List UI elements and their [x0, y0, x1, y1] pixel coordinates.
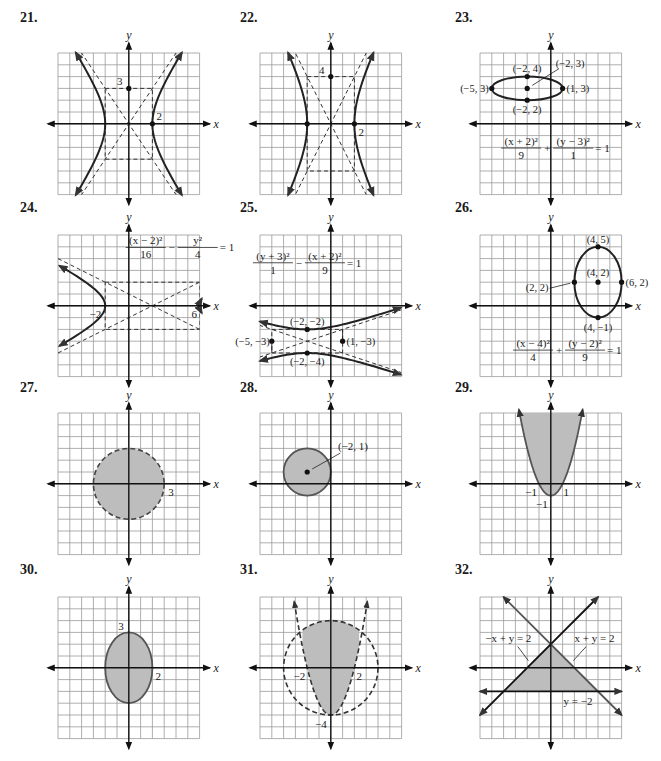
annotation-label: −2: [293, 670, 305, 682]
y-axis-label: y: [547, 28, 554, 42]
svg-text:−: −: [169, 241, 175, 253]
y-axis-label: y: [547, 388, 554, 402]
plot-31: −22−4xy: [240, 562, 460, 757]
svg-text:y²: y²: [193, 234, 203, 246]
annotation-label: 2: [156, 110, 162, 122]
svg-text:9: 9: [582, 351, 588, 363]
y-axis-label: y: [327, 388, 334, 402]
graph-panel-29: 29.−11−1xy: [455, 380, 661, 570]
x-axis-label: x: [415, 117, 422, 131]
annotation-label: −x + y = 2: [485, 632, 531, 644]
axes: xy: [250, 210, 422, 387]
x-axis-label: x: [635, 477, 642, 491]
axes: xy: [470, 28, 642, 205]
x-axis-label: x: [213, 299, 220, 313]
plot-24: −26(x − 2)²16−y²4= 1xy: [20, 200, 240, 395]
axes: xy: [250, 388, 422, 565]
annotation-label: 3: [168, 486, 174, 498]
annotation-label: (−2, 4): [513, 63, 542, 75]
equation: (x − 2)²16−y²4= 1: [126, 234, 234, 260]
annotation-label: 2: [155, 670, 161, 682]
annotation-label: (4, 2): [587, 267, 610, 279]
annotation-label: 2: [356, 670, 362, 682]
annotation-label: −1: [536, 498, 548, 510]
graph-panel-26: 26.(4, 5)(4, 2)(2, 2)(6, 2)(4, −1)(x − 4…: [455, 200, 661, 390]
annotation-label: y = −2: [563, 695, 592, 707]
svg-text:= 1: = 1: [347, 257, 361, 269]
graph-panel-27: 27.3xy: [20, 380, 240, 570]
x-axis-label: x: [415, 477, 422, 491]
x-axis-label: x: [415, 661, 422, 675]
annotation-label: (−2, 2): [513, 104, 542, 116]
graph-panel-21: 21.32xy: [20, 10, 240, 200]
svg-text:(x − 4)²: (x − 4)²: [516, 337, 550, 350]
svg-text:1: 1: [570, 149, 576, 161]
svg-text:(x + 2)²: (x + 2)²: [308, 250, 342, 263]
plot-23: (−2, 4)(−2, 3)(−5, 3)(1, 3)(−2, 2)(x + 2…: [455, 10, 661, 205]
plot-28: (−2, 1)xy: [240, 380, 460, 575]
point-marker: [525, 98, 530, 103]
svg-text:4: 4: [195, 248, 201, 260]
point-marker: [560, 86, 565, 91]
annotation-label: −2: [89, 308, 101, 320]
annotation-label: (1, −3): [347, 336, 376, 348]
x-axis-label: x: [635, 117, 642, 131]
point-marker: [572, 280, 577, 285]
annotation-label: 4: [319, 64, 325, 76]
svg-text:16: 16: [140, 248, 152, 260]
point-marker: [489, 86, 494, 91]
annotation-label: 2: [358, 126, 364, 138]
axes: xy: [470, 210, 642, 387]
equation: (x + 2)²9+(y − 3)²1= 1: [501, 135, 609, 161]
point-marker: [525, 74, 530, 79]
svg-text:(y − 3)²: (y − 3)²: [557, 135, 591, 148]
plot-27: 3xy: [20, 380, 240, 575]
svg-text:(y + 3)²: (y + 3)²: [256, 250, 290, 263]
svg-text:(x − 2)²: (x − 2)²: [129, 234, 163, 247]
graph-panel-23: 23.(−2, 4)(−2, 3)(−5, 3)(1, 3)(−2, 2)(x …: [455, 10, 661, 200]
svg-text:(y − 2)²: (y − 2)²: [568, 337, 602, 350]
annotation-label: (−2, −2): [290, 316, 325, 328]
point-marker: [305, 469, 310, 474]
y-axis-label: y: [125, 572, 132, 586]
annotation-label: (−2, −4): [290, 356, 325, 368]
annotation-label: (−5, 3): [460, 83, 489, 95]
annotation-label: (4, −1): [584, 322, 613, 334]
annotation-label: (−2, 3): [556, 58, 585, 70]
y-axis-label: y: [327, 210, 334, 224]
y-axis-label: y: [547, 572, 554, 586]
annotation-label: 3: [118, 620, 124, 632]
annotation-label: 3: [117, 75, 123, 87]
point-marker: [525, 86, 530, 91]
annotation-label: (−5, −3): [235, 336, 270, 348]
plot-21: 32xy: [20, 10, 240, 205]
point-marker: [595, 244, 600, 249]
plot-30: 32xy: [20, 562, 240, 757]
point-marker: [595, 315, 600, 320]
x-axis-label: x: [415, 299, 422, 313]
annotation-label: (4, 5): [587, 234, 610, 246]
y-axis-label: y: [327, 28, 334, 42]
svg-text:= 1: = 1: [595, 142, 609, 154]
y-axis-label: y: [125, 388, 132, 402]
svg-text:9: 9: [518, 149, 524, 161]
annotation-label: 6: [192, 308, 198, 320]
graph-panel-25: 25.(−2, −2)(−5, −3)(1, −3)(−2, −4)(y + 3…: [240, 200, 460, 390]
svg-text:9: 9: [322, 264, 328, 276]
svg-text:(x + 2)²: (x + 2)²: [505, 135, 539, 148]
point-marker: [595, 280, 600, 285]
y-axis-label: y: [125, 210, 132, 224]
plot-26: (4, 5)(4, 2)(2, 2)(6, 2)(4, −1)(x − 4)²4…: [455, 200, 661, 395]
graph-panel-31: 31.−22−4xy: [240, 562, 460, 752]
annotation-label: (2, 2): [526, 282, 549, 294]
annotation-label: (1, 3): [567, 83, 590, 95]
point-marker: [305, 327, 310, 332]
svg-text:= 1: = 1: [220, 241, 234, 253]
graph-panel-24: 24.−26(x − 2)²16−y²4= 1xy: [20, 200, 240, 390]
annotation-label: −1: [525, 486, 537, 498]
annotation-label: (−2, 1): [338, 440, 368, 453]
axes: xy: [250, 28, 422, 205]
x-axis-label: x: [213, 117, 220, 131]
y-axis-label: y: [547, 210, 554, 224]
graph-panel-22: 22.42xy: [240, 10, 460, 200]
